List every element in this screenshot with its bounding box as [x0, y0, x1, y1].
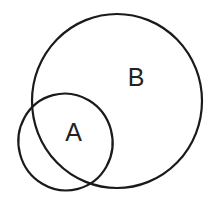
set-b-circle — [32, 14, 202, 188]
venn-diagram: B A — [0, 0, 219, 215]
set-b-label: B — [128, 63, 145, 91]
set-a-label: A — [65, 118, 82, 146]
